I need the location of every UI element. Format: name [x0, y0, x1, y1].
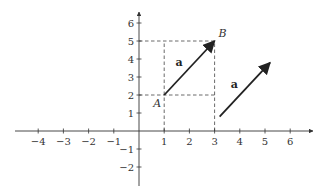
vector-arrow — [220, 63, 270, 117]
y-tick-label: 1 — [128, 108, 134, 119]
guide-lines — [139, 41, 215, 131]
y-tick-label: 5 — [128, 36, 134, 47]
vector-arrow — [164, 41, 214, 95]
point-label-b: B — [218, 27, 227, 40]
vector-chart: −4−3−2−1123456−2−1123456 aaAB — [0, 0, 331, 196]
labels: aaAB — [152, 27, 238, 110]
y-tick-label: −1 — [119, 144, 134, 155]
x-tick-label: 1 — [161, 136, 167, 147]
point-label-a: A — [152, 97, 161, 110]
x-tick-label: −4 — [31, 136, 46, 147]
x-tick-label: −3 — [56, 136, 71, 147]
y-tick-label: 2 — [128, 90, 134, 101]
vector-label: a — [231, 78, 238, 91]
y-tick-label: 4 — [128, 54, 134, 65]
x-tick-label: 2 — [186, 136, 192, 147]
y-tick-label: 6 — [128, 18, 134, 29]
x-tick-label: 4 — [237, 136, 243, 147]
y-tick-label: −2 — [119, 162, 134, 173]
x-tick-label: 3 — [211, 136, 217, 147]
vector-label: a — [175, 56, 182, 69]
x-tick-label: 5 — [262, 136, 268, 147]
ticks: −4−3−2−1123456−2−1123456 — [31, 18, 294, 173]
vectors — [164, 41, 270, 117]
x-tick-label: 6 — [287, 136, 293, 147]
x-tick-label: −2 — [81, 136, 96, 147]
y-tick-label: 3 — [128, 72, 134, 83]
